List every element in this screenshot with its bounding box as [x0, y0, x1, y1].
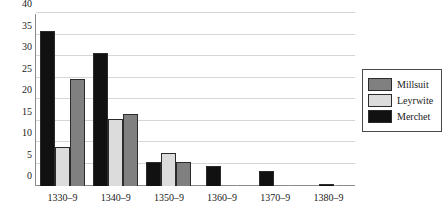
- legend-item-merchet: Merchet: [368, 110, 437, 123]
- y-axis-tick-label: 5: [4, 150, 32, 160]
- legend-label: Millsuit: [397, 79, 429, 90]
- x-axis-tick-label: 1330–9: [36, 192, 89, 203]
- bar-leyrwite-13409: [108, 119, 123, 187]
- bar-millsuit-13709: [289, 185, 291, 186]
- legend-label: Leyrwite: [397, 95, 433, 106]
- x-axis-tick-label: 1360–9: [196, 192, 249, 203]
- y-axis-tick-label: 40: [4, 0, 32, 9]
- bar-millsuit-13409: [123, 114, 138, 186]
- x-axis-tick-label: 1380–9: [302, 192, 355, 203]
- legend-label: Merchet: [397, 111, 430, 122]
- y-axis-tick-label: 35: [4, 21, 32, 31]
- bar-leyrwite-13309: [55, 147, 70, 186]
- x-axis-tick-labels: 1330–91340–91350–91360–91370–91380–9: [36, 192, 355, 203]
- bar-merchet-13809: [319, 184, 334, 186]
- y-axis-tick-label: 20: [4, 85, 32, 95]
- x-axis-tick-label: 1370–9: [249, 192, 302, 203]
- y-axis-tick-label: 10: [4, 128, 32, 138]
- legend-swatch-leyrwite: [368, 94, 392, 107]
- bar-chart: 0510152025303540 1330–91340–91350–91360–…: [0, 0, 447, 222]
- bar-group: [89, 14, 142, 186]
- y-axis-tick-labels: 0510152025303540: [0, 14, 32, 186]
- legend-swatch-millsuit: [368, 78, 392, 91]
- y-axis-tick-label: 25: [4, 64, 32, 74]
- bar-millsuit-13309: [70, 79, 85, 187]
- bar-group: [196, 14, 249, 186]
- x-axis-tick-label: 1340–9: [89, 192, 142, 203]
- chart-legend: MillsuitLeyrwiteMerchet: [362, 69, 442, 132]
- y-axis-tick-label: 30: [4, 42, 32, 52]
- bar-merchet-13309: [40, 31, 55, 186]
- legend-item-leyrwite: Leyrwite: [368, 94, 437, 107]
- gridline: [36, 12, 355, 13]
- legend-swatch-merchet: [368, 110, 392, 123]
- bar-millsuit-13609: [236, 185, 238, 186]
- bar-millsuit-13509: [176, 162, 191, 186]
- bar-groups: [36, 14, 355, 186]
- bar-millsuit-13809: [336, 185, 338, 186]
- bar-leyrwite-13509: [161, 153, 176, 186]
- bar-merchet-13409: [93, 53, 108, 186]
- bar-merchet-13509: [146, 162, 161, 187]
- bar-merchet-13609: [206, 166, 221, 186]
- bar-group: [142, 14, 195, 186]
- bar-group: [36, 14, 89, 186]
- y-axis-tick-label: 0: [4, 171, 32, 181]
- x-axis-tick-label: 1350–9: [142, 192, 195, 203]
- bar-merchet-13709: [259, 171, 274, 186]
- bar-group: [302, 14, 355, 186]
- y-axis-tick-label: 15: [4, 107, 32, 117]
- legend-item-millsuit: Millsuit: [368, 78, 437, 91]
- bar-group: [249, 14, 302, 186]
